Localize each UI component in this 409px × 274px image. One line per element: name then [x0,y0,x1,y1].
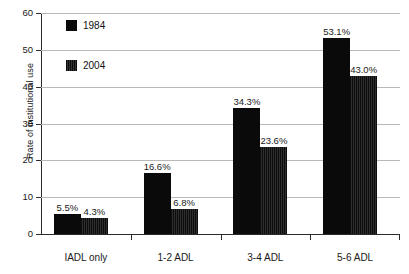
bar-value-label: 4.3% [73,206,115,217]
y-tick-label: 60 [7,8,33,17]
y-tick-mark [36,50,41,51]
y-tick-mark [36,160,41,161]
legend-entry-2004: 2004 [66,60,105,71]
x-category-label: 1-2 ADL [131,252,221,263]
legend-entry-1984: 1984 [66,20,105,31]
y-tick-label: 40 [7,82,33,91]
bar-1984-3-4-adl [233,108,260,234]
y-tick-mark [36,197,41,198]
gridline [41,13,400,14]
y-tick-mark [36,87,41,88]
plot-area: 0102030405060IADL only5.5%4.3%1-2 ADL16.… [41,13,400,234]
legend-swatch-1984-icon [66,20,77,31]
y-tick-mark [36,124,41,125]
bar-value-label: 43.0% [343,64,385,75]
x-tick-mark [310,234,311,240]
y-tick-label: 0 [7,229,33,238]
bar-value-label: 53.1% [316,26,358,37]
bar-value-label: 6.8% [163,197,205,208]
bar-2004-5-6-adl [350,76,377,234]
y-tick-label: 30 [7,119,33,128]
legend-label-2004: 2004 [83,60,105,71]
legend-swatch-2004-icon [66,60,77,71]
y-tick-label: 20 [7,155,33,164]
bar-value-label: 16.6% [136,161,178,172]
bar-value-label: 23.6% [253,135,295,146]
bar-chart: Rate of institutional use 0102030405060I… [0,0,409,274]
bar-value-label: 34.3% [226,96,268,107]
x-tick-mark [131,234,132,240]
bar-2004-iadl-only [81,218,108,234]
legend-label-1984: 1984 [83,20,105,31]
y-tick-mark [36,13,41,14]
x-category-label: 3-4 ADL [220,252,310,263]
y-tick-label: 50 [7,45,33,54]
x-tick-mark-end [399,234,400,240]
bar-2004-1-2-adl [171,209,198,234]
y-tick-label: 10 [7,192,33,201]
x-tick-mark [221,234,222,240]
y-tick-mark [36,234,41,235]
x-category-label: IADL only [41,252,131,263]
bar-2004-3-4-adl [260,147,287,234]
x-category-label: 5-6 ADL [310,252,400,263]
